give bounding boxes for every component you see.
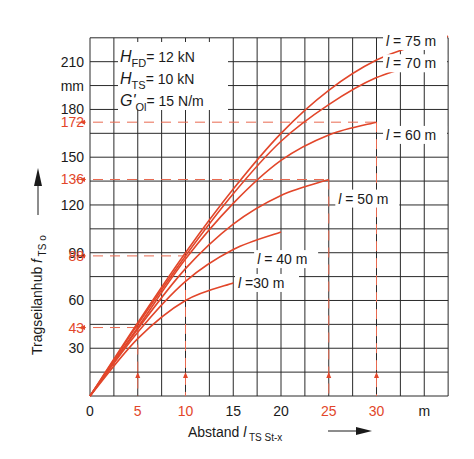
arrow-up-icon [374, 372, 379, 378]
x-tick-label: 0 [86, 403, 94, 419]
y-axis-title: Tragseilanhub f TS o [29, 235, 48, 355]
series-label: l = 40 m [257, 251, 307, 267]
y-tick-label: 210 [61, 54, 85, 70]
arrow-up-icon [183, 372, 188, 378]
x-unit-label: m [418, 403, 430, 419]
x-tick-label: 30 [369, 403, 385, 419]
x-tick-label: 15 [225, 403, 241, 419]
x-tick-label: 5 [134, 403, 142, 419]
y-tick-highlight: 88 [68, 248, 84, 264]
y-unit-label: mm [61, 78, 84, 94]
y-tick-label: 30 [68, 340, 84, 356]
x-tick-label: 10 [178, 403, 194, 419]
x-tick-label: 20 [273, 403, 289, 419]
y-tick-label: 60 [68, 292, 84, 308]
arrow-up-icon [326, 372, 331, 378]
series-label: l = 75 m [386, 33, 436, 49]
axis-labels: 306090120150180210mm43881361720510152025… [29, 54, 430, 443]
series-label: l = 70 m [386, 55, 436, 71]
arrow-up-icon [135, 372, 140, 378]
reading-lines [76, 120, 379, 396]
arrow-right-icon [356, 427, 372, 435]
series-label: l = 60 m [386, 127, 436, 143]
series-label: l =30 m [238, 275, 284, 291]
y-tick-label: 150 [61, 149, 85, 165]
x-axis-title: Abstand l TS St-x [188, 424, 282, 443]
y-tick-highlight: 43 [68, 320, 84, 336]
x-tick-label: 25 [321, 403, 337, 419]
arrow-up-icon [34, 168, 42, 186]
y-tick-highlight: 136 [61, 171, 85, 187]
series-label: l = 50 m [338, 191, 388, 207]
chart: l =30 ml = 40 ml = 50 ml = 60 ml = 70 ml… [0, 0, 474, 459]
y-tick-highlight: 172 [61, 114, 85, 130]
y-tick-label: 120 [61, 197, 85, 213]
parameter-box: HFD= 12 kNHTS= 10 kNG'Ol= 15 N/m [118, 42, 228, 113]
